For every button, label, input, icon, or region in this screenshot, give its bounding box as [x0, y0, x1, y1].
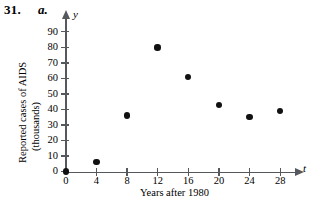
data-point	[277, 108, 283, 114]
y-axis-tick	[61, 155, 69, 156]
x-axis-tick-label: 16	[178, 176, 198, 187]
x-axis-tick-label: 8	[117, 176, 137, 187]
y-axis-tick	[61, 109, 69, 110]
y-axis-label-line2: (thousands)	[30, 102, 41, 151]
data-point	[246, 114, 252, 120]
data-point	[124, 112, 130, 118]
y-axis-tick-label: 50	[36, 89, 58, 100]
data-point	[154, 44, 160, 50]
y-axis-tick-label: 0	[36, 166, 58, 177]
y-axis-tick	[61, 140, 69, 141]
x-axis-tick-label: 0	[56, 176, 76, 187]
y-axis-label-line1: Reported cases of AIDS	[17, 62, 28, 163]
x-axis-variable: t	[303, 162, 306, 174]
y-axis-tick	[61, 124, 69, 125]
y-axis-tick-label: 80	[36, 42, 58, 53]
x-axis-tick-label: 24	[240, 176, 260, 187]
y-axis-tick-label: 90	[36, 27, 58, 38]
y-axis-tick-label: 60	[36, 73, 58, 84]
x-axis-tick-label: 28	[270, 176, 290, 187]
y-axis-tick	[61, 78, 69, 79]
y-axis-tick	[61, 93, 69, 94]
y-axis-tick	[61, 62, 69, 63]
data-point	[216, 102, 222, 108]
scatter-plot: y t 0102030405060708090 0481216202428 Re…	[0, 0, 311, 204]
y-axis-arrow-icon	[62, 10, 70, 19]
data-point	[63, 168, 69, 174]
data-point	[185, 74, 191, 80]
x-axis-tick-label: 4	[86, 176, 106, 187]
x-axis-line	[65, 172, 298, 174]
exercise-figure: 31. a. y t 0102030405060708090 048121620…	[0, 0, 311, 204]
y-axis-tick	[61, 31, 69, 32]
y-axis-variable: y	[73, 8, 78, 20]
y-axis-tick-label: 10	[36, 151, 58, 162]
x-axis-label: Years after 1980	[0, 187, 311, 198]
x-axis-tick-label: 12	[148, 176, 168, 187]
y-axis-tick-label: 70	[36, 58, 58, 69]
y-axis-tick	[61, 47, 69, 48]
x-axis-tick-label: 20	[209, 176, 229, 187]
y-axis-line	[65, 18, 67, 173]
data-point	[93, 159, 99, 165]
